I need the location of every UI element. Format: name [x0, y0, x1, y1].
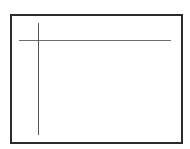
- diagram-frame: [10, 14, 183, 144]
- vertical-line: [38, 23, 39, 135]
- horizontal-line: [19, 40, 171, 41]
